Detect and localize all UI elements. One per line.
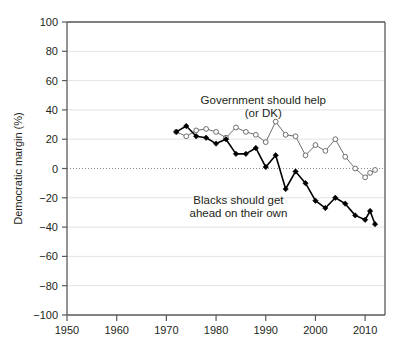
y-tick-label: −20	[39, 192, 58, 204]
x-tick-label: 2000	[303, 324, 327, 336]
x-tick-label: 1950	[55, 324, 79, 336]
government-help-point	[204, 127, 209, 132]
y-tick-label: −100	[33, 309, 58, 321]
annotation-blacks-own-line: ahead on their own	[190, 207, 288, 219]
government-help-point	[194, 128, 199, 133]
y-tick-label: 80	[46, 45, 58, 57]
annotation-government-help-line: (or DK)	[245, 107, 282, 119]
government-help-point	[184, 134, 189, 139]
government-help-point	[214, 129, 219, 134]
line-chart: −100−80−60−40−20020406080100 19501960197…	[0, 0, 404, 364]
annotation-blacks-own: Blacks should getahead on their own	[190, 194, 288, 219]
annotation-blacks-own-line: Blacks should get	[193, 194, 284, 206]
x-tick-label: 1970	[154, 324, 178, 336]
government-help-point	[234, 125, 239, 130]
government-help-point	[333, 137, 338, 142]
y-tick-label: 0	[52, 163, 58, 175]
y-tick-label: 100	[40, 16, 58, 28]
government-help-point	[273, 119, 278, 124]
government-help-point	[323, 149, 328, 154]
y-tick-label: −40	[39, 221, 58, 233]
y-tick-label: 20	[46, 133, 58, 145]
government-help-point	[313, 143, 318, 148]
y-tick-label: −80	[39, 280, 58, 292]
government-help-point	[283, 132, 288, 137]
government-help-point	[293, 134, 298, 139]
chart-background	[0, 0, 404, 364]
government-help-point	[353, 166, 358, 171]
government-help-point	[303, 153, 308, 158]
y-tick-label: −60	[39, 250, 58, 262]
y-axis-title: Democratic margin (%)	[12, 112, 24, 224]
government-help-point	[343, 154, 348, 159]
y-axis-title-text: Democratic margin (%)	[12, 112, 24, 224]
chart-container: −100−80−60−40−20020406080100 19501960197…	[0, 0, 404, 364]
x-tick-label: 1960	[104, 324, 128, 336]
government-help-point	[363, 175, 368, 180]
x-tick-label: 2010	[353, 324, 377, 336]
government-help-point	[253, 132, 258, 137]
government-help-point	[263, 140, 268, 145]
government-help-point	[373, 168, 378, 173]
y-tick-label: 40	[46, 104, 58, 116]
annotation-government-help-line: Government should help	[201, 94, 326, 106]
y-tick-label: 60	[46, 75, 58, 87]
x-tick-label: 1990	[254, 324, 278, 336]
government-help-point	[243, 129, 248, 134]
x-tick-label: 1980	[204, 324, 228, 336]
government-help-point	[368, 171, 373, 176]
